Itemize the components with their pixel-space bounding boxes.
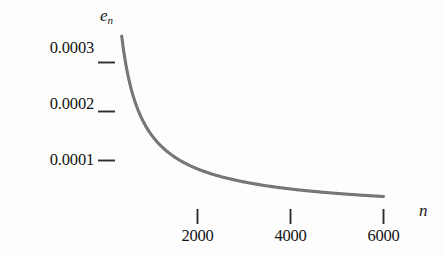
data-curve-en	[122, 36, 384, 196]
y-tick-label: 0.0002	[50, 94, 94, 114]
x-axis-label: n	[419, 201, 428, 221]
y-axis-label-subscript: n	[108, 14, 114, 26]
x-tick-label: 4000	[251, 226, 331, 246]
x-tick-label: 2000	[158, 226, 238, 246]
y-tick-label: 0.0003	[50, 38, 94, 58]
y-axis-label-base: e	[100, 6, 108, 25]
chart-figure: en n 0.00010.00020.0003 200040006000	[0, 0, 445, 256]
y-tick-label: 0.0001	[50, 150, 94, 170]
data-curve-core	[122, 36, 384, 196]
x-tick-label: 6000	[344, 226, 424, 246]
y-axis-label: en	[100, 6, 113, 26]
